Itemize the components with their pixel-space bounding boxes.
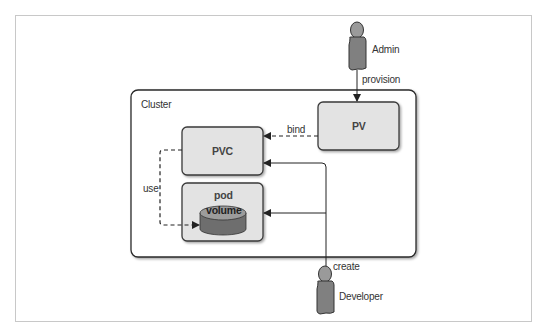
diagram-canvas bbox=[0, 0, 545, 335]
pod-label: pod bbox=[214, 189, 233, 201]
pvc-label: PVC bbox=[212, 145, 233, 157]
cluster-label: Cluster bbox=[141, 99, 171, 110]
admin-person-icon bbox=[349, 22, 366, 70]
developer-person-icon bbox=[317, 266, 334, 314]
create-label: create bbox=[333, 261, 360, 272]
bind-label: bind bbox=[287, 124, 305, 135]
pv-label: PV bbox=[352, 120, 366, 132]
developer-label: Developer bbox=[339, 291, 383, 302]
admin-label: Admin bbox=[372, 44, 399, 55]
use-label: use bbox=[143, 183, 159, 194]
provision-label: provision bbox=[362, 74, 400, 85]
volume-label: volume bbox=[206, 204, 242, 216]
